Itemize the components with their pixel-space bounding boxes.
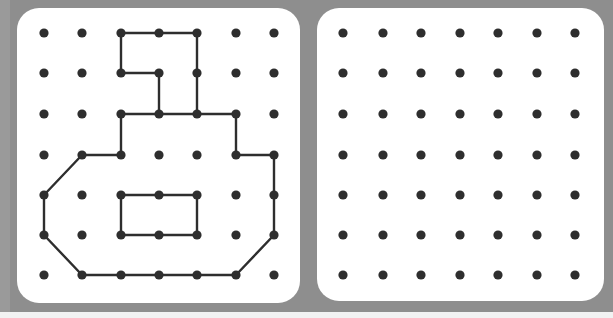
grid-dot [77,109,86,118]
grid-dot [154,28,163,37]
grid-dot [192,150,201,159]
grid-dot[interactable] [532,270,541,279]
grid-dot[interactable] [532,150,541,159]
grid-dot[interactable] [416,190,425,199]
grid-dot [77,68,86,77]
grid-dot [231,109,240,118]
grid-dot [154,270,163,279]
grid-dot[interactable] [455,230,464,239]
grid-dot[interactable] [493,28,502,37]
grid-dot [269,270,278,279]
grid-dot [192,68,201,77]
grid-dot [231,190,240,199]
grid-dot[interactable] [378,150,387,159]
grid-dot[interactable] [416,109,425,118]
grid-dot [116,109,125,118]
grid-dot[interactable] [493,230,502,239]
grid-dot [116,270,125,279]
grid-dot[interactable] [416,230,425,239]
grid-dot[interactable] [532,190,541,199]
grid-dot [77,150,86,159]
grid-dot [231,150,240,159]
grid-dot[interactable] [338,270,347,279]
grid-dot [231,270,240,279]
grid-dot[interactable] [338,68,347,77]
grid-dot[interactable] [570,150,579,159]
grid-dot [154,150,163,159]
grid-dot[interactable] [455,270,464,279]
grid-dot[interactable] [338,28,347,37]
grid-dot [77,190,86,199]
grid-dot[interactable] [570,68,579,77]
grid-dot[interactable] [570,28,579,37]
model-geoboard-panel [17,8,300,303]
grid-dot [39,150,48,159]
grid-dot [231,28,240,37]
grid-dot[interactable] [378,230,387,239]
blank-dot-grid[interactable] [317,8,604,301]
grid-dot[interactable] [570,230,579,239]
grid-dot[interactable] [493,190,502,199]
grid-dot [77,230,86,239]
grid-dot[interactable] [455,28,464,37]
grid-dot[interactable] [532,28,541,37]
grid-dot [39,190,48,199]
frame-edge [0,0,10,318]
grid-dot [77,270,86,279]
page-bottom-margin [0,312,613,318]
grid-dot [269,230,278,239]
grid-dot[interactable] [378,190,387,199]
grid-dot [269,28,278,37]
grid-dot [116,230,125,239]
grid-dot[interactable] [570,190,579,199]
grid-dot [39,230,48,239]
grid-dot[interactable] [493,150,502,159]
grid-dot [192,28,201,37]
grid-dot[interactable] [532,68,541,77]
grid-dot[interactable] [455,190,464,199]
grid-dot [231,68,240,77]
grid-dot[interactable] [455,150,464,159]
grid-dot[interactable] [455,109,464,118]
grid-dot[interactable] [570,270,579,279]
grid-dot[interactable] [378,109,387,118]
grid-dot [154,230,163,239]
grid-dot [269,190,278,199]
grid-dot[interactable] [416,28,425,37]
grid-dot[interactable] [493,109,502,118]
grid-dot[interactable] [416,270,425,279]
grid-dot[interactable] [455,68,464,77]
grid-dot [116,190,125,199]
grid-dot [154,190,163,199]
grid-dot[interactable] [338,150,347,159]
grid-dot [154,68,163,77]
grid-dot [116,28,125,37]
grid-dot[interactable] [416,68,425,77]
grid-dot [116,68,125,77]
grid-dot [231,230,240,239]
grid-dot [269,109,278,118]
grid-dot[interactable] [416,150,425,159]
grid-dot[interactable] [338,109,347,118]
grid-dot[interactable] [338,230,347,239]
grid-dot [39,28,48,37]
grid-dot [39,68,48,77]
grid-dot[interactable] [493,270,502,279]
grid-dot [192,270,201,279]
grid-dot [269,68,278,77]
grid-dot [77,28,86,37]
grid-dot[interactable] [378,28,387,37]
grid-dot[interactable] [378,68,387,77]
grid-dot [39,109,48,118]
figure-window-rectangle [121,195,197,235]
grid-dot[interactable] [532,230,541,239]
grid-dot[interactable] [378,270,387,279]
grid-dot [154,109,163,118]
blank-geoboard-panel[interactable] [317,8,604,301]
grid-dot [116,150,125,159]
model-dot-grid [17,8,300,303]
grid-dot[interactable] [532,109,541,118]
grid-dot[interactable] [570,109,579,118]
grid-dot[interactable] [338,190,347,199]
grid-dot[interactable] [493,68,502,77]
